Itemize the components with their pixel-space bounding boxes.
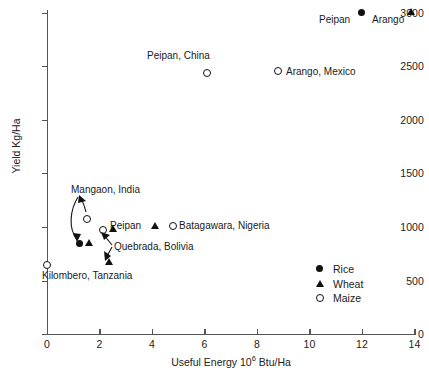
point-rice-mangaon[interactable] (76, 240, 83, 247)
x-tick-label-10: 10 (294, 338, 324, 350)
y-tick-label-500: 500 (384, 275, 424, 287)
label-kilombero-tanzania: Kilombero, Tanzania (42, 270, 132, 281)
x-tick-label-6: 6 (189, 338, 219, 350)
point-maize-peipan-china[interactable] (203, 69, 211, 77)
x-axis-title-suffix: Btu/Ha (256, 356, 291, 368)
legend-label-wheat: Wheat (333, 277, 363, 292)
y-tick-label-1500: 1500 (384, 167, 424, 179)
x-tick-14 (414, 329, 415, 335)
point-wheat-quebrada-low[interactable] (105, 258, 113, 265)
x-tick-2 (99, 329, 100, 335)
y-tick-3000 (42, 13, 48, 14)
x-axis-title: Useful Energy 106 Btu/Ha (47, 354, 415, 368)
open-circle-icon (316, 294, 324, 302)
y-tick-500 (42, 281, 48, 282)
x-tick-6 (204, 329, 205, 335)
y-tick-1500 (42, 173, 48, 174)
x-tick-label-4: 4 (137, 338, 167, 350)
x-tick-label-8: 8 (242, 338, 272, 350)
label-arango-top: Arango (372, 14, 404, 25)
filled-circle-icon (316, 265, 323, 272)
point-wheat-peipan-inline[interactable] (151, 222, 159, 229)
y-tick-2000 (42, 120, 48, 121)
y-tick-2500 (42, 66, 48, 67)
x-tick-0 (47, 329, 48, 335)
legend-label-rice: Rice (333, 262, 354, 277)
point-maize-quebrada[interactable] (99, 226, 107, 234)
label-peipan-inline: Peipan (110, 220, 141, 231)
x-tick-12 (362, 329, 363, 335)
x-axis-line (47, 334, 415, 335)
point-maize-batagawara[interactable] (169, 222, 177, 230)
point-maize-mangaon-india[interactable] (83, 215, 91, 223)
label-batagawara-nigeria: Batagawara, Nigeria (179, 220, 270, 231)
y-tick-label-2500: 2500 (384, 60, 424, 72)
label-quebrada-bolivia: Quebrada, Bolivia (114, 241, 194, 252)
x-axis-title-prefix: Useful Energy 10 (171, 356, 252, 368)
x-tick-label-12: 12 (347, 338, 377, 350)
point-rice-peipan[interactable] (358, 9, 365, 16)
x-tick-10 (309, 329, 310, 335)
y-tick-label-1000: 1000 (384, 221, 424, 233)
x-tick-label-14: 14 (399, 338, 429, 350)
x-tick-label-0: 0 (32, 338, 62, 350)
point-maize-kilombero[interactable] (43, 261, 51, 269)
label-arango-mexico: Arango, Mexico (286, 66, 355, 77)
label-peipan-china: Peipan, China (147, 50, 210, 61)
point-wheat-arango[interactable] (407, 8, 415, 15)
point-wheat-mangaon[interactable] (85, 239, 93, 246)
x-tick-4 (152, 329, 153, 335)
label-peipan-top: Peipan (319, 14, 350, 25)
y-tick-1000 (42, 227, 48, 228)
y-tick-label-2000: 2000 (384, 114, 424, 126)
legend-label-maize: Maize (333, 291, 361, 306)
x-tick-8 (257, 329, 258, 335)
point-maize-arango-mexico[interactable] (274, 67, 282, 75)
filled-triangle-icon (316, 280, 324, 287)
y-axis-title: Yield Kg/Ha (10, 91, 22, 201)
x-tick-label-2: 2 (84, 338, 114, 350)
label-mangaon-india: Mangaon, India (71, 184, 140, 195)
